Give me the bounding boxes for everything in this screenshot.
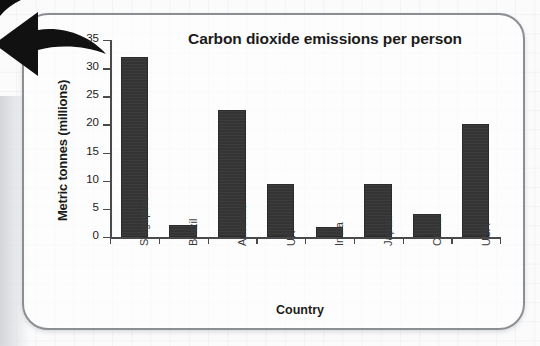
x-axis-tick bbox=[208, 237, 209, 244]
y-axis-tick-label: 15 bbox=[72, 145, 99, 157]
y-axis-tick bbox=[103, 40, 110, 41]
x-axis-tick bbox=[256, 237, 257, 244]
y-axis-tick-label: 5 bbox=[72, 201, 99, 213]
plot-area: 05101520253035 SingaporeBrazilAustraliaU… bbox=[110, 40, 500, 237]
x-axis-category-label: Australia bbox=[236, 203, 248, 246]
y-axis-tick bbox=[103, 209, 110, 210]
x-axis-tick bbox=[500, 237, 501, 244]
y-axis-tick-label: 35 bbox=[72, 32, 99, 44]
x-axis-tick bbox=[451, 237, 452, 244]
y-axis-tick-label: 20 bbox=[72, 116, 99, 128]
x-axis-tick bbox=[305, 237, 306, 244]
y-axis-tick bbox=[103, 68, 110, 69]
x-axis-category-label: Brazil bbox=[187, 218, 199, 246]
y-axis-tick-label: 30 bbox=[72, 60, 99, 72]
y-axis-tick-label: 10 bbox=[72, 173, 99, 185]
bar bbox=[267, 184, 294, 237]
y-axis-tick bbox=[103, 237, 110, 238]
y-axis-tick-label: 25 bbox=[72, 88, 99, 100]
y-axis-tick bbox=[103, 153, 110, 154]
x-axis-title: Country bbox=[150, 303, 450, 317]
x-axis-tick bbox=[354, 237, 355, 244]
x-axis-category-label: India bbox=[333, 222, 345, 246]
y-axis-line bbox=[110, 40, 112, 238]
y-axis-tick-label: 0 bbox=[72, 229, 99, 241]
y-axis-tick bbox=[103, 181, 110, 182]
x-axis-category-label: USA bbox=[480, 223, 492, 246]
y-axis-title: Metric tonnes (millions) bbox=[55, 51, 70, 251]
x-axis-category-label: Singapore bbox=[138, 196, 150, 246]
x-axis-category-label: Japan bbox=[382, 216, 394, 246]
bar-chart: Carbon dioxide emissions per person Metr… bbox=[0, 0, 540, 346]
x-axis-tick bbox=[403, 237, 404, 244]
y-axis-tick bbox=[103, 124, 110, 125]
x-axis-tick bbox=[110, 237, 111, 244]
y-axis-tick bbox=[103, 96, 110, 97]
x-axis-category-label: China bbox=[431, 217, 443, 246]
x-axis-category-label: UK bbox=[285, 231, 297, 246]
x-axis-tick bbox=[159, 237, 160, 244]
bar bbox=[462, 124, 489, 237]
